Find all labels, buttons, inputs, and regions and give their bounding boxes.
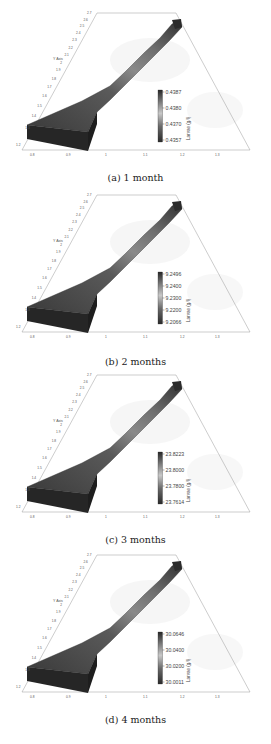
y-tick-label: 1.3 <box>25 668 30 672</box>
colorbar-tick-label: 0.4370 <box>166 121 182 127</box>
x-axis-ticks: 0.80.911.11.21.3 <box>30 695 220 699</box>
y-tick-label: 2 <box>60 603 62 607</box>
y-tick-label: 2.4 <box>76 213 81 217</box>
y-tick-label: 1.7 <box>47 85 52 89</box>
y-axis-label: Y Axis <box>53 57 63 61</box>
background-noise <box>110 400 243 490</box>
x-tick-label: 0.9 <box>66 515 71 519</box>
colorbar-tick-label: 0.4387 <box>166 89 182 95</box>
y-tick-label: 2.1 <box>64 235 69 239</box>
x-tick-label: 1.1 <box>143 335 148 339</box>
x-tick-label: 0.9 <box>66 335 71 339</box>
y-tick-label: 1.6 <box>42 456 47 460</box>
x-tick-label: 1 <box>105 153 107 157</box>
y-tick-label: 2.1 <box>64 53 69 57</box>
y-tick-label: 1.4 <box>32 114 37 118</box>
y-tick-label: 2.2 <box>68 228 73 232</box>
x-axis-ticks: 0.80.911.11.21.3 <box>30 515 220 519</box>
y-axis-label: Y Axis <box>53 239 63 243</box>
x-tick-label: 1 <box>105 335 107 339</box>
y-tick-label: 2.7 <box>87 373 92 377</box>
colorbar-tick-label: 9.2200 <box>166 307 182 313</box>
y-tick-label: 2.3 <box>72 580 77 584</box>
figure-panel-c: 1.21.31.41.51.61.71.81.922.12.22.32.42.5… <box>0 362 271 522</box>
y-tick-label: 1.5 <box>37 104 42 108</box>
colorbar-label: Larvae (g/l) <box>186 478 191 502</box>
y-tick-label: 1.8 <box>52 77 57 81</box>
y-tick-label: 2.3 <box>72 38 77 42</box>
colorbar-tick-label: 23.7800 <box>166 483 185 489</box>
colorbar-label: Larvae (g/l) <box>186 298 191 322</box>
y-tick-label: 1.3 <box>25 126 30 130</box>
x-tick-label: 1.2 <box>180 153 185 157</box>
y-tick-label: 1.4 <box>32 476 37 480</box>
y-tick-label: 2.7 <box>87 11 92 15</box>
y-tick-label: 2.7 <box>87 193 92 197</box>
y-tick-label: 1.7 <box>47 267 52 271</box>
y-tick-label: 1.2 <box>16 325 21 329</box>
x-tick-label: 0.8 <box>30 695 35 699</box>
x-tick-label: 1.1 <box>143 695 148 699</box>
colorbar-tick-label: 9.2400 <box>166 283 182 289</box>
y-tick-label: 2.1 <box>64 595 69 599</box>
colorbar-label: Larvae (g/l) <box>186 658 191 682</box>
background-noise <box>110 38 243 128</box>
colorbar-tick-label: 0.4380 <box>166 105 182 111</box>
y-tick-label: 2.5 <box>80 386 85 390</box>
x-tick-label: 1 <box>105 695 107 699</box>
colorbar-tick-label: 0.4357 <box>166 137 182 143</box>
x-tick-label: 1.1 <box>143 515 148 519</box>
y-tick-label: 2.2 <box>68 588 73 592</box>
y-tick-label: 1.8 <box>52 259 57 263</box>
background-noise <box>110 580 243 670</box>
figure-panel-d: 1.21.31.41.51.61.71.81.922.12.22.32.42.5… <box>0 542 271 702</box>
colorbar: 30.064630.040030.020030.0011 Larvae (g/l… <box>158 631 191 685</box>
y-tick-label: 1.8 <box>52 619 57 623</box>
y-tick-label: 2.7 <box>87 553 92 557</box>
y-tick-label: 2.6 <box>83 200 88 204</box>
y-tick-label: 1.4 <box>32 656 37 660</box>
x-tick-label: 1.2 <box>180 515 185 519</box>
x-axis-ticks: 0.80.911.11.21.3 <box>30 335 220 339</box>
y-tick-label: 1.9 <box>56 250 61 254</box>
colorbar: 9.24969.24009.23009.22009.2066 Larvae (g… <box>158 271 191 325</box>
y-tick-label: 2.4 <box>76 573 81 577</box>
x-tick-label: 1.3 <box>215 515 220 519</box>
y-tick-label: 1.9 <box>56 610 61 614</box>
y-tick-label: 2.2 <box>68 46 73 50</box>
figure-panel-b: 1.21.31.41.51.61.71.81.922.12.22.32.42.5… <box>0 182 271 342</box>
x-tick-label: 1.3 <box>215 695 220 699</box>
y-axis-label: Y Axis <box>53 419 63 423</box>
colorbar-tick-label: 23.8000 <box>166 467 185 473</box>
x-tick-label: 0.8 <box>30 335 35 339</box>
x-axis-ticks: 0.80.911.11.21.3 <box>30 153 220 157</box>
colorbar: 0.43870.43800.43700.4357 Larvae (g/l) <box>158 89 191 143</box>
y-tick-label: 1.9 <box>56 68 61 72</box>
colorbar-tick-label: 30.0011 <box>166 679 184 685</box>
x-tick-label: 1.3 <box>215 335 220 339</box>
x-tick-label: 0.8 <box>30 515 35 519</box>
x-tick-label: 1.3 <box>215 153 220 157</box>
y-tick-label: 2.1 <box>64 415 69 419</box>
y-tick-label: 2 <box>60 423 62 427</box>
y-tick-label: 2.6 <box>83 560 88 564</box>
y-tick-label: 1.5 <box>37 646 42 650</box>
y-tick-label: 1.5 <box>37 286 42 290</box>
x-tick-label: 0.9 <box>66 695 71 699</box>
figure-panel-a: 1.21.31.41.51.61.71.81.922.12.22.32.42.5… <box>0 0 271 160</box>
colorbar-tick-label: 9.2066 <box>166 319 182 325</box>
y-tick-label: 2.5 <box>80 206 85 210</box>
colorbar-tick-label: 23.7614 <box>166 499 185 505</box>
plot-3d: 1.21.31.41.51.61.71.81.922.12.22.32.42.5… <box>0 542 271 702</box>
y-tick-label: 1.5 <box>37 466 42 470</box>
y-tick-label: 1.4 <box>32 296 37 300</box>
y-tick-label: 1.6 <box>42 94 47 98</box>
y-tick-label: 1.2 <box>16 685 21 689</box>
y-tick-label: 1.6 <box>42 636 47 640</box>
y-tick-label: 2.5 <box>80 24 85 28</box>
colorbar-tick-label: 23.8223 <box>166 451 185 457</box>
x-tick-label: 1 <box>105 515 107 519</box>
x-tick-label: 0.9 <box>66 153 71 157</box>
y-axis-label: Y Axis <box>53 599 63 603</box>
plot-3d: 1.21.31.41.51.61.71.81.922.12.22.32.42.5… <box>0 362 271 522</box>
